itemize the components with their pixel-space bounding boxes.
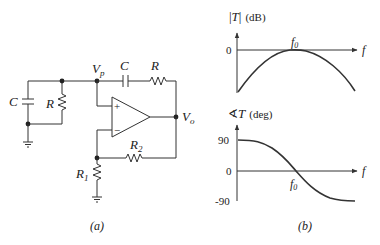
shunt-capacitor-label: C	[9, 94, 18, 109]
vo-label: Vo	[182, 109, 195, 126]
shunt-capacitor	[22, 81, 34, 124]
opamp-plus: +	[114, 100, 120, 112]
phase-tick-minus-90: -90	[215, 195, 230, 207]
magnitude-curve	[238, 50, 355, 92]
series-capacitor	[123, 75, 128, 87]
series-resistor-label: R	[150, 58, 159, 73]
wire-feedback	[142, 117, 176, 158]
phase-tick-90: 90	[218, 134, 230, 146]
ground-resistor-label: R1	[75, 166, 88, 183]
magnitude-zero-tick: 0	[226, 44, 232, 56]
feedback-resistor	[97, 154, 142, 162]
phase-x-label: f	[362, 164, 367, 178]
phase-axis-title: ∢T(deg)	[228, 106, 273, 121]
series-resistor	[150, 77, 176, 85]
shunt-resistor	[58, 81, 66, 124]
junction-node	[60, 79, 65, 84]
magnitude-f0-label: f0	[291, 35, 298, 50]
wire-plus-input	[97, 81, 112, 106]
series-capacitor-label: C	[120, 58, 129, 73]
ground-icon	[23, 124, 33, 147]
vp-label: Vp	[92, 61, 105, 78]
shunt-resistor-label: R	[45, 96, 54, 111]
ground-icon	[92, 197, 102, 202]
magnitude-x-label: f	[362, 43, 367, 57]
figure-canvas: C R Vp C R	[0, 0, 380, 245]
magnitude-plot: |T|(dB) 0 f f0	[226, 9, 367, 93]
circuit-schematic: C R Vp C R	[9, 58, 195, 233]
panel-a-caption: (a)	[90, 219, 104, 233]
phase-plot: ∢T(deg) 90 0 -90 f f0	[215, 106, 367, 207]
panel-b-caption: (b)	[298, 219, 312, 233]
phase-f0-label: f0	[290, 177, 297, 192]
wire-minus-input	[97, 130, 112, 158]
opamp-minus: −	[114, 124, 120, 136]
opamp: + −	[112, 97, 150, 137]
feedback-resistor-label: R2	[129, 137, 143, 154]
phase-tick-0: 0	[226, 165, 232, 177]
magnitude-axis-title: |T|(dB)	[229, 9, 266, 24]
ground-resistor	[93, 158, 101, 197]
